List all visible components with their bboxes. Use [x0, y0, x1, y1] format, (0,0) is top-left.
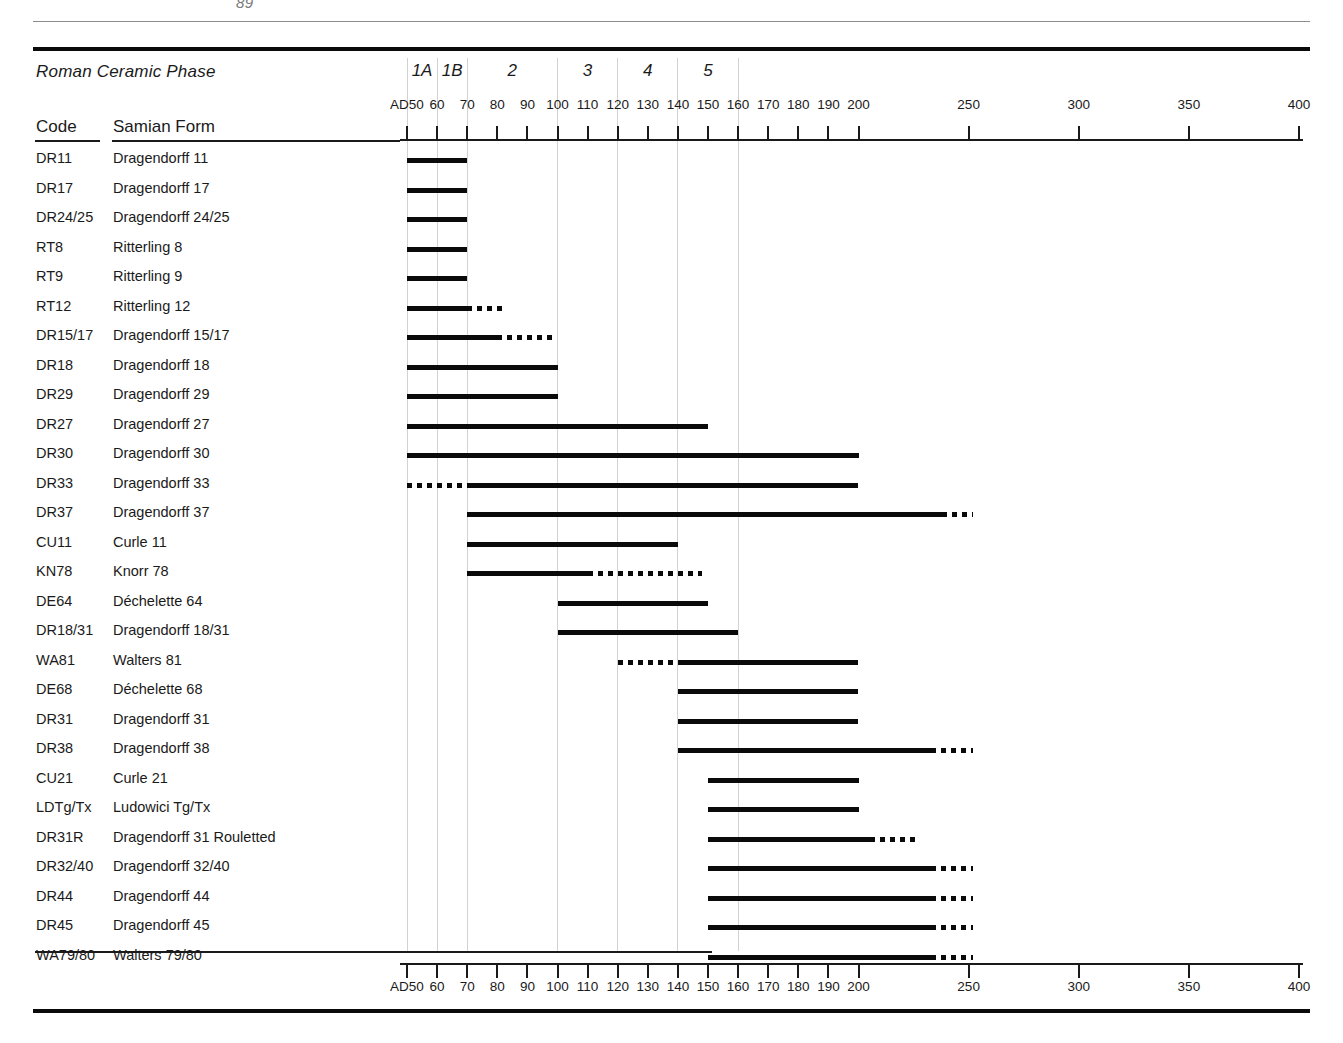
range-bar-solid — [407, 453, 859, 458]
axis-tick-label-50: AD50 — [390, 97, 424, 112]
row-code: DR27 — [36, 416, 73, 432]
axis-tick-label-350: 350 — [1178, 979, 1201, 994]
row-form-name: Dragendorff 30 — [113, 445, 209, 461]
range-bar-dotted-end — [870, 837, 916, 842]
row-code: DR32/40 — [36, 858, 93, 874]
axis-tick-250 — [968, 126, 970, 139]
row-code: DR18 — [36, 357, 73, 373]
row-form-name: Dragendorff 18 — [113, 357, 209, 373]
axis-tick-160 — [737, 965, 739, 978]
axis-tick-60 — [436, 965, 438, 978]
row-form-name: Dragendorff 38 — [113, 740, 209, 756]
range-bar-solid — [708, 896, 931, 901]
axis-tick-150 — [707, 126, 709, 139]
axis-tick-label-180: 180 — [787, 97, 810, 112]
axis-tick-50 — [406, 965, 408, 978]
row-form-name: Dragendorff 17 — [113, 180, 209, 196]
axis-tick-label-250: 250 — [957, 97, 980, 112]
row-form-name: Dragendorff 11 — [113, 150, 208, 166]
axis-tick-200 — [858, 126, 860, 139]
row-form-name: Dragendorff 29 — [113, 386, 209, 402]
axis-tick-110 — [587, 126, 589, 139]
row-form-name: Dragendorff 32/40 — [113, 858, 230, 874]
axis-tick-label-70: 70 — [460, 97, 475, 112]
row-code: DE68 — [36, 681, 72, 697]
range-bar-solid — [708, 807, 859, 812]
phase-label-3: 3 — [583, 61, 592, 81]
range-bar-solid — [708, 955, 931, 960]
axis-tick-label-200: 200 — [847, 97, 870, 112]
range-bar-solid — [467, 512, 942, 517]
axis-tick-70 — [466, 965, 468, 978]
row-form-name: Knorr 78 — [113, 563, 169, 579]
axis-tick-label-120: 120 — [606, 97, 629, 112]
axis-tick-300 — [1078, 965, 1080, 978]
axis-tick-80 — [496, 126, 498, 139]
range-bar-solid — [407, 424, 708, 429]
axis-tick-label-160: 160 — [727, 97, 750, 112]
row-code: DR44 — [36, 888, 73, 904]
range-bar-dotted-start — [618, 660, 678, 665]
range-bar-solid — [708, 925, 931, 930]
row-code: DR37 — [36, 504, 73, 520]
row-code: KN78 — [36, 563, 72, 579]
range-bar-solid — [407, 276, 467, 281]
row-form-name: Déchelette 64 — [113, 593, 202, 609]
range-bar-solid — [407, 247, 467, 252]
row-form-name: Dragendorff 44 — [113, 888, 209, 904]
axis-tick-100 — [557, 126, 559, 139]
range-bar-solid — [558, 601, 709, 606]
axis-tick-400 — [1298, 965, 1300, 978]
axis-tick-400 — [1298, 126, 1300, 139]
axis-tick-50 — [406, 126, 408, 139]
axis-tick-180 — [797, 965, 799, 978]
axis-tick-label-250: 250 — [957, 979, 980, 994]
range-bar-solid — [407, 217, 467, 222]
range-bar-dotted-end — [931, 955, 973, 960]
axis-tick-300 — [1078, 126, 1080, 139]
range-bar-solid — [678, 660, 859, 665]
axis-tick-label-350: 350 — [1178, 97, 1201, 112]
row-form-name: Ritterling 12 — [113, 298, 190, 314]
row-code: CU21 — [36, 770, 73, 786]
axis-tick-label-400: 400 — [1288, 979, 1311, 994]
range-bar-solid — [708, 866, 931, 871]
axis-tick-130 — [647, 126, 649, 139]
axis-tick-label-80: 80 — [490, 97, 505, 112]
row-code: WA81 — [36, 652, 75, 668]
range-bar-solid — [678, 719, 859, 724]
row-code: DR11 — [36, 150, 72, 166]
phase-gridline — [557, 58, 558, 951]
row-code: RT9 — [36, 268, 63, 284]
phase-label-4: 4 — [643, 61, 652, 81]
row-code: LDTg/Tx — [36, 799, 92, 815]
range-bar-solid — [407, 394, 558, 399]
axis-tick-150 — [707, 965, 709, 978]
row-code: DR45 — [36, 917, 73, 933]
axis-tick-label-90: 90 — [520, 979, 535, 994]
axis-tick-label-300: 300 — [1067, 97, 1090, 112]
axis-tick-label-400: 400 — [1288, 97, 1311, 112]
row-form-name: Walters 79/80 — [113, 947, 202, 963]
row-code: DR31 — [36, 711, 73, 727]
axis-tick-120 — [617, 965, 619, 978]
axis-tick-label-180: 180 — [787, 979, 810, 994]
axis-tick-190 — [827, 965, 829, 978]
row-form-name: Dragendorff 31 — [113, 711, 209, 727]
range-bar-solid — [407, 335, 497, 340]
row-code: DR33 — [36, 475, 73, 491]
phase-label-5: 5 — [703, 61, 712, 81]
axis-tick-90 — [526, 965, 528, 978]
range-bar-solid — [407, 306, 467, 311]
range-bar-solid — [708, 837, 870, 842]
axis-tick-190 — [827, 126, 829, 139]
row-form-name: Dragendorff 33 — [113, 475, 209, 491]
axis-tick-label-70: 70 — [460, 979, 475, 994]
row-code: DR38 — [36, 740, 73, 756]
row-code: DR18/31 — [36, 622, 93, 638]
table-bottom-rule — [33, 1009, 1310, 1013]
axis-tick-label-190: 190 — [817, 97, 840, 112]
row-code: DR31R — [36, 829, 84, 845]
row-form-name: Dragendorff 45 — [113, 917, 209, 933]
range-bar-dotted-end — [942, 512, 973, 517]
